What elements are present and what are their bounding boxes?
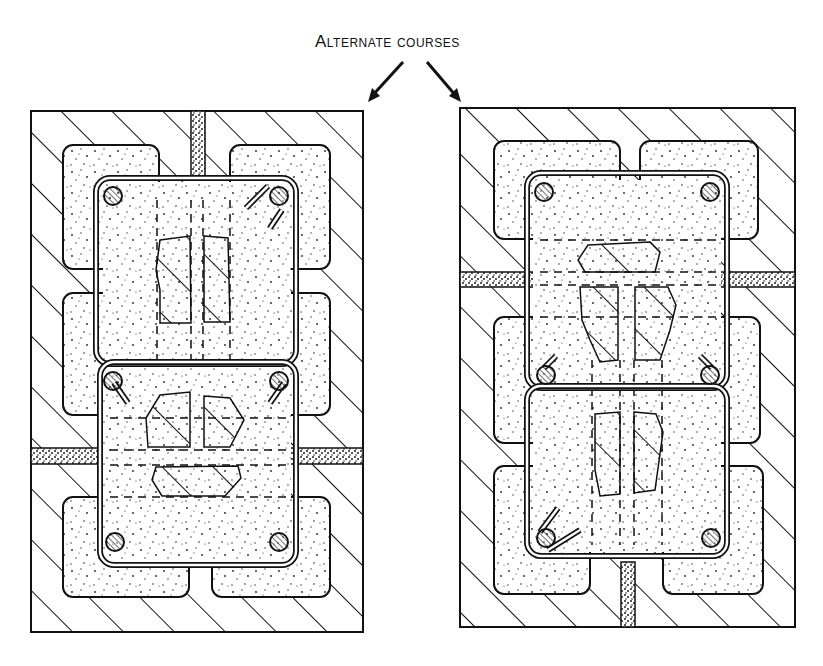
rebar-icon — [104, 187, 122, 205]
panel-left — [31, 111, 363, 632]
core-void — [204, 236, 230, 322]
rebar-icon — [270, 533, 288, 551]
core-void — [595, 412, 620, 496]
grout-core — [103, 182, 291, 562]
rebar-icon — [106, 533, 124, 551]
rebar-icon — [702, 529, 720, 547]
rebar-icon — [104, 372, 122, 390]
rebar-icon — [537, 366, 555, 384]
mortar-joint — [191, 111, 205, 176]
rebar-icon — [701, 183, 719, 201]
rebar-icon — [701, 366, 719, 384]
arrow-left — [372, 62, 403, 96]
panel-right — [460, 108, 795, 627]
diagram-canvas — [0, 0, 823, 666]
core-void — [578, 242, 660, 272]
rebar-icon — [537, 529, 555, 547]
rebar-icon — [270, 372, 288, 390]
rebar-icon — [535, 183, 553, 201]
core-void — [156, 236, 191, 323]
arrow-right — [427, 62, 456, 96]
arrows — [368, 62, 461, 102]
mortar-joint — [621, 562, 635, 627]
rebar-icon — [270, 187, 288, 205]
core-void — [152, 466, 241, 496]
grout-core — [533, 180, 721, 552]
